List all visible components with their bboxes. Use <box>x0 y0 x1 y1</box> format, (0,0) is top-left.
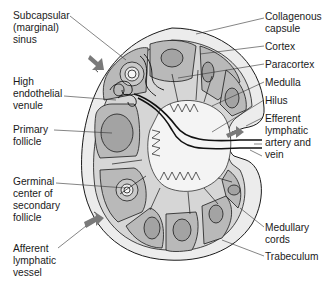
label-medullary-cords: Medullary cords <box>265 222 309 246</box>
label-line: vein <box>265 149 311 161</box>
label-line: Hilus <box>265 95 288 107</box>
label-line: Medullary <box>265 222 309 234</box>
label-high-endothelial-venule: High endothelial venule <box>13 76 62 112</box>
label-line: Collagenous <box>265 11 322 23</box>
label-line: sinus <box>13 34 70 46</box>
label-medulla: Medulla <box>265 77 301 89</box>
label-collagenous-capsule: Collagenous capsule <box>265 11 322 35</box>
label-line: vessel <box>13 267 56 279</box>
label-line: Medulla <box>265 77 301 89</box>
label-line: venule <box>13 100 62 112</box>
label-line: Efferent <box>265 113 308 125</box>
label-line: High <box>13 76 62 88</box>
label-line: follicle <box>13 136 48 148</box>
label-artery-and-vein: artery and vein <box>265 137 311 161</box>
label-line: lymphatic <box>265 125 308 137</box>
label-hilus: Hilus <box>265 95 288 107</box>
label-line: Primary <box>13 124 48 136</box>
label-line: artery and <box>265 137 311 149</box>
label-afferent-lymphatic-vessel: Afferent lymphatic vessel <box>13 243 56 279</box>
label-line: capsule <box>265 23 322 35</box>
label-line: cords <box>265 234 309 246</box>
label-cortex: Cortex <box>265 41 295 53</box>
label-efferent-lymphatic: Efferent lymphatic <box>265 113 308 137</box>
label-line: Cortex <box>265 41 295 53</box>
label-primary-follicle: Primary follicle <box>13 124 48 148</box>
label-trabeculum: Trabeculum <box>265 251 318 263</box>
label-line: Paracortex <box>265 59 314 71</box>
label-line: follicle <box>13 212 60 224</box>
label-line: center of <box>13 188 60 200</box>
label-line: lymphatic <box>13 255 56 267</box>
label-line: Subcapsular <box>13 10 70 22</box>
label-line: (marginal) <box>13 22 70 34</box>
label-germinal-center: Germinal center of secondary follicle <box>13 176 60 224</box>
label-line: Germinal <box>13 176 60 188</box>
label-line: Trabeculum <box>265 251 318 263</box>
label-line: secondary <box>13 200 60 212</box>
label-paracortex: Paracortex <box>265 59 314 71</box>
label-line: Afferent <box>13 243 56 255</box>
label-line: endothelial <box>13 88 62 100</box>
label-subcapsular-sinus: Subcapsular (marginal) sinus <box>13 10 70 46</box>
